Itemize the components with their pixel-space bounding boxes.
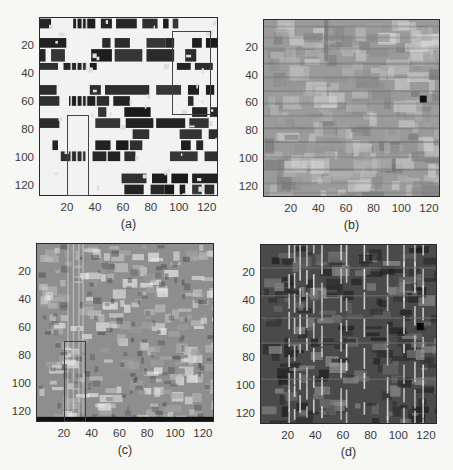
x-tick-label: 40 <box>300 429 330 441</box>
x-tick-label: 80 <box>136 201 166 213</box>
x-tick-label: 60 <box>104 427 134 439</box>
y-tick-label: 40 <box>4 67 34 79</box>
x-tick-label: 120 <box>411 429 441 441</box>
axes-a <box>39 17 218 196</box>
y-tick-label: 60 <box>1 321 31 333</box>
y-tick-label: 100 <box>225 379 255 391</box>
y-tick-label: 80 <box>1 349 31 361</box>
x-tick-label: 40 <box>80 201 110 213</box>
axes-d <box>260 244 437 424</box>
x-tick-label: 100 <box>164 201 194 213</box>
x-tick-label: 120 <box>192 201 222 213</box>
x-tick-label: 100 <box>386 202 416 214</box>
x-tick-label: 20 <box>273 429 303 441</box>
y-tick-label: 80 <box>228 124 258 136</box>
x-tick-label: 120 <box>188 427 218 439</box>
axes-c <box>36 243 214 422</box>
x-tick-label: 40 <box>77 427 107 439</box>
y-tick-label: 20 <box>225 266 255 278</box>
x-tick-label: 20 <box>49 427 79 439</box>
x-tick-label: 100 <box>383 429 413 441</box>
y-tick-label: 120 <box>4 179 34 191</box>
y-tick-label: 40 <box>1 293 31 305</box>
axes-b <box>263 19 440 197</box>
y-tick-label: 100 <box>4 151 34 163</box>
x-tick-label: 80 <box>356 429 386 441</box>
y-tick-label: 120 <box>225 407 255 419</box>
y-tick-label: 60 <box>4 95 34 107</box>
image-d <box>261 245 436 423</box>
x-tick-label: 20 <box>52 201 82 213</box>
image-a <box>40 18 217 195</box>
y-tick-label: 80 <box>225 351 255 363</box>
y-tick-label: 40 <box>225 294 255 306</box>
y-tick-label: 120 <box>228 180 258 192</box>
x-tick-label: 60 <box>328 429 358 441</box>
caption-c: (c) <box>105 443 145 457</box>
x-tick-label: 120 <box>414 202 444 214</box>
y-tick-label: 20 <box>1 265 31 277</box>
y-tick-label: 120 <box>1 405 31 417</box>
image-c <box>37 244 213 421</box>
x-tick-label: 80 <box>132 427 162 439</box>
x-tick-label: 20 <box>276 202 306 214</box>
caption-d: (d) <box>329 445 369 459</box>
caption-a: (a) <box>109 217 149 231</box>
y-tick-label: 20 <box>228 41 258 53</box>
x-tick-label: 40 <box>303 202 333 214</box>
y-tick-label: 100 <box>228 152 258 164</box>
y-tick-label: 60 <box>228 96 258 108</box>
x-tick-label: 60 <box>108 201 138 213</box>
x-tick-label: 60 <box>331 202 361 214</box>
y-tick-label: 20 <box>4 39 34 51</box>
y-tick-label: 100 <box>1 377 31 389</box>
x-tick-label: 100 <box>160 427 190 439</box>
y-tick-label: 40 <box>228 69 258 81</box>
caption-b: (b) <box>332 218 372 232</box>
x-tick-label: 80 <box>359 202 389 214</box>
image-b <box>264 20 439 196</box>
y-tick-label: 60 <box>225 322 255 334</box>
y-tick-label: 80 <box>4 123 34 135</box>
